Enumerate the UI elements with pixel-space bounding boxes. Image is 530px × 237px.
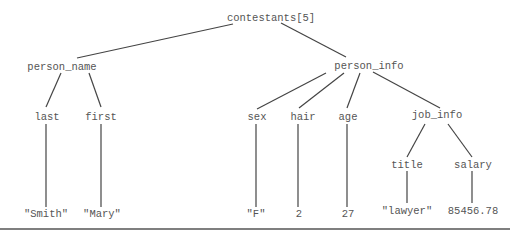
node-person-info: person_info (334, 61, 403, 72)
edge-person-info-hair (299, 73, 344, 108)
value-last: "Smith" (24, 209, 68, 220)
node-contestants: contestants[5] (227, 13, 315, 24)
edge-root-person-info (281, 23, 346, 57)
node-last: last (34, 112, 59, 123)
edge-person-info-age (347, 73, 360, 108)
node-first: first (85, 112, 117, 123)
node-job-info: job_info (412, 110, 462, 121)
node-hair: hair (290, 112, 315, 123)
edge-job-info-salary (448, 124, 472, 157)
value-sex: "F" (247, 209, 266, 220)
node-sex: sex (248, 112, 267, 123)
edge-person-name-last (46, 73, 61, 107)
edge-person-info-sex (257, 73, 326, 109)
value-hair: 2 (296, 209, 302, 220)
edge-person-info-job-info (373, 72, 440, 108)
node-person-name: person_name (27, 62, 96, 73)
tree-diagram: contestants[5] person_name person_info l… (0, 0, 530, 237)
edge-person-name-first (89, 73, 101, 107)
value-first: "Mary" (83, 209, 121, 220)
edge-job-info-title (407, 124, 425, 157)
node-salary: salary (454, 160, 492, 171)
value-title: "lawyer" (382, 206, 432, 217)
value-age: 27 (342, 209, 355, 220)
node-title: title (391, 160, 423, 171)
value-salary: 85456.78 (448, 206, 498, 217)
edge-root-person-name (77, 24, 233, 58)
node-age: age (339, 112, 358, 123)
